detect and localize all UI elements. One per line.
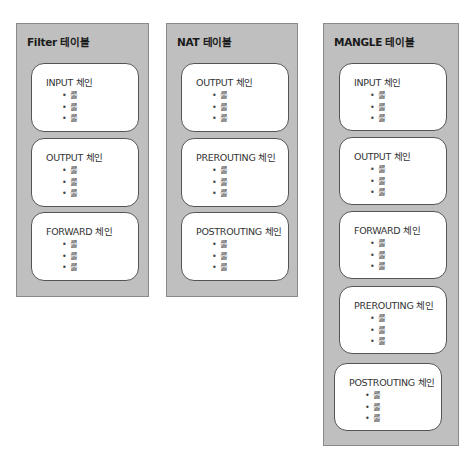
table-title: NAT 테이블 [177,34,232,49]
rule-list: •룰 •룰 •룰 [62,239,78,274]
rule-item: •룰 [212,251,228,263]
rule-list: •룰 •룰 •룰 [212,165,228,200]
rule-item: •룰 [370,90,386,102]
table-title: Filter 테이블 [27,34,89,49]
chain-name: FORWARD 체인 [354,223,420,237]
chain-name: OUTPUT 체인 [354,149,411,163]
chain-box: FORWARD 체인 •룰 •룰 •룰 [31,212,139,281]
chain-box: OUTPUT 체인 •룰 •룰 •룰 [339,137,447,205]
rule-item: •룰 [370,336,386,348]
rule-item: •룰 [370,261,386,273]
rule-item: •룰 [370,325,386,337]
chain-name: OUTPUT 체인 [196,75,253,89]
rule-item: •룰 [212,113,228,125]
rule-item: •룰 [62,177,78,189]
rule-list: •룰 •룰 •룰 [212,239,228,274]
rule-item: •룰 [212,188,228,200]
rule-item: •룰 [370,113,386,125]
chain-name: OUTPUT 체인 [46,150,103,164]
rule-item: •룰 [62,102,78,114]
rule-item: •룰 [62,165,78,177]
rule-item: •룰 [62,262,78,274]
mangle-table-panel: MANGLE 테이블 INPUT 체인 •룰 •룰 •룰 OUTPUT 체인 •… [323,23,459,446]
rule-item: •룰 [365,402,381,414]
chain-name: PREROUTING 체인 [196,150,276,164]
chain-box: POSTROUTING 체인 •룰 •룰 •룰 [181,212,289,281]
chain-box: PREROUTING 체인 •룰 •룰 •룰 [339,286,447,354]
rule-item: •룰 [370,238,386,250]
rule-list: •룰 •룰 •룰 [365,390,381,425]
rule-list: •룰 •룰 •룰 [370,90,386,125]
rule-item: •룰 [62,113,78,125]
chain-name: INPUT 체인 [46,75,93,89]
chain-name: POSTROUTING 체인 [196,224,282,238]
rule-item: •룰 [62,239,78,251]
rule-item: •룰 [370,164,386,176]
rule-item: •룰 [365,413,381,425]
rule-item: •룰 [212,239,228,251]
chain-name: INPUT 체인 [354,75,401,89]
rule-item: •룰 [62,90,78,102]
rule-item: •룰 [212,177,228,189]
rule-list: •룰 •룰 •룰 [212,90,228,125]
rule-item: •룰 [212,90,228,102]
chain-box: INPUT 체인 •룰 •룰 •룰 [31,63,139,132]
rule-item: •룰 [370,102,386,114]
rule-item: •룰 [370,187,386,199]
chain-box: FORWARD 체인 •룰 •룰 •룰 [339,211,447,279]
chain-box: OUTPUT 체인 •룰 •룰 •룰 [181,63,289,132]
chain-box: INPUT 체인 •룰 •룰 •룰 [339,63,447,131]
rule-list: •룰 •룰 •룰 [62,90,78,125]
table-title: MANGLE 테이블 [334,34,415,49]
chain-box: PREROUTING 체인 •룰 •룰 •룰 [181,138,289,207]
rule-item: •룰 [370,250,386,262]
rule-item: •룰 [62,251,78,263]
rule-item: •룰 [62,188,78,200]
rule-item: •룰 [212,102,228,114]
rule-item: •룰 [212,165,228,177]
chain-box: POSTROUTING 체인 •룰 •룰 •룰 [334,363,442,431]
chain-box: OUTPUT 체인 •룰 •룰 •룰 [31,138,139,207]
rule-item: •룰 [370,176,386,188]
filter-table-panel: Filter 테이블 INPUT 체인 •룰 •룰 •룰 OUTPUT 체인 •… [16,23,149,297]
chain-name: PREROUTING 체인 [354,298,434,312]
chain-name: FORWARD 체인 [46,224,112,238]
nat-table-panel: NAT 테이블 OUTPUT 체인 •룰 •룰 •룰 PREROUTING 체인… [166,23,298,297]
rule-item: •룰 [212,262,228,274]
rule-list: •룰 •룰 •룰 [370,164,386,199]
rule-item: •룰 [370,313,386,325]
rule-list: •룰 •룰 •룰 [370,238,386,273]
rule-list: •룰 •룰 •룰 [62,165,78,200]
rule-item: •룰 [365,390,381,402]
chain-name: POSTROUTING 체인 [349,375,435,389]
rule-list: •룰 •룰 •룰 [370,313,386,348]
